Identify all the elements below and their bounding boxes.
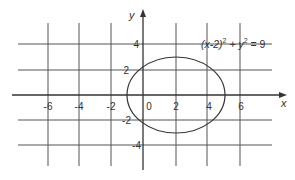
axes [12, 9, 287, 170]
y-axis-label: y [128, 9, 136, 21]
equation-annotation: (x-2)2 + y2 = 9 [201, 37, 266, 50]
x-tick-label: -4 [75, 101, 84, 112]
x-axis-label: x [280, 97, 287, 109]
x-tick-label: -2 [107, 101, 116, 112]
x-tick-label: 4 [206, 101, 212, 112]
y-tick-label: 2 [123, 65, 129, 76]
x-tick-label: 2 [173, 101, 179, 112]
x-tick-label: 0 [146, 101, 152, 112]
x-tick-labels: -6 -4 -2 0 2 4 6 [44, 101, 245, 112]
y-tick-label: -2 [122, 115, 131, 126]
x-tick-label: -6 [44, 101, 53, 112]
y-tick-label: -4 [132, 140, 141, 151]
y-tick-label: 4 [133, 39, 139, 50]
chart-plot: x y -6 -4 -2 0 2 4 6 4 2 -2 -4 (x-2)2 + … [0, 0, 295, 180]
x-tick-label: 6 [238, 101, 244, 112]
y-axis-arrow-icon [140, 9, 146, 17]
